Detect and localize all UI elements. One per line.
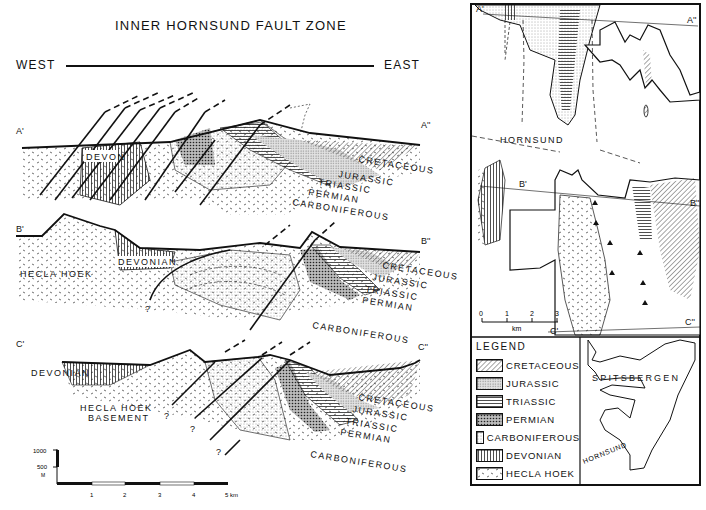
hecla-hoek-swatch-icon: [476, 467, 503, 480]
map-label-a-end: A'': [687, 15, 697, 25]
hscale-tick-3: 3: [158, 492, 162, 498]
label-hecla-hoek: HECLA HOEK: [20, 269, 93, 279]
svg-text:1: 1: [505, 310, 509, 317]
uncertain-marker: ?: [190, 424, 195, 434]
svg-text:km: km: [512, 325, 522, 332]
uncertain-marker: ?: [145, 304, 150, 314]
cross-section-b: B' B'' DEVONIAN HECLA HOEK ? CRETACEOUS …: [16, 214, 459, 345]
label-basement: BASEMENT: [88, 413, 150, 423]
label-hecla-hoek: HECLA HOEK: [80, 403, 153, 413]
map-label-c-start: C': [550, 326, 558, 336]
section-b-start: B': [16, 224, 24, 234]
label-carboniferous: CARBONIFEROUS: [312, 320, 410, 345]
svg-text:0: 0: [479, 310, 483, 317]
uncertain-marker: ?: [216, 447, 221, 457]
svg-text:2: 2: [530, 310, 534, 317]
hscale-tick-2: 2: [123, 492, 127, 498]
spitsbergen-inset: SPITSBERGEN HORNSUND: [582, 340, 695, 470]
carboniferous-swatch-icon: [476, 431, 484, 444]
triassic-swatch-icon: [476, 395, 503, 408]
cross-section-a: DEVON A' A'' CRETACEOUS JURASSIC TRIASSI…: [16, 92, 435, 222]
label-devonian: DEVONIAN: [118, 257, 177, 267]
permian-swatch-icon: [476, 413, 503, 426]
jurassic-swatch-icon: [476, 377, 503, 390]
diagram-canvas: DEVON A' A'' CRETACEOUS JURASSIC TRIASSI…: [0, 0, 706, 510]
vscale-unit: M: [41, 472, 45, 478]
svg-text:3: 3: [555, 310, 559, 317]
map-hornsund-label: HORNSUND: [500, 135, 564, 145]
vscale-500: 500: [37, 464, 48, 470]
section-c-end: C'': [418, 342, 428, 352]
horizontal-scale: 1 2 3 4 5 km: [57, 482, 238, 498]
cross-section-c: C' C'' DEVONIAN HECLA HOEK BASEMENT ? ? …: [16, 339, 435, 474]
map-scale: 0 1 2 3 km: [479, 310, 559, 332]
legend-item-jurassic: JURASSIC: [476, 374, 580, 392]
label-devon: DEVON: [86, 152, 126, 162]
hscale-tick-1: 1: [90, 492, 94, 498]
hscale-tick-4: 4: [192, 492, 196, 498]
legend-item-triassic: TRIASSIC: [476, 392, 580, 410]
section-b-end: B'': [421, 236, 431, 246]
section-c-start: C': [16, 339, 24, 349]
vscale-1000: 1000: [33, 448, 47, 454]
legend-item-cretaceous: CRETACEOUS: [476, 356, 580, 374]
legend-item-devonian: DEVONIAN: [476, 446, 580, 464]
legend: LEGEND CRETACEOUS JURASSIC TRIASSIC PERM…: [472, 340, 580, 482]
label-carboniferous: CARBONIFEROUS: [310, 449, 408, 474]
hscale-end: 5 km: [225, 492, 238, 498]
legend-item-carboniferous: CARBONIFEROUS: [476, 428, 580, 446]
cretaceous-swatch-icon: [476, 359, 503, 372]
vertical-scale: 1000 500 M: [33, 448, 59, 484]
uncertain-marker: ?: [164, 411, 169, 421]
map-label-b-end: B'': [690, 198, 700, 208]
map-label-b-start: B': [519, 179, 527, 189]
inset-title: SPITSBERGEN: [592, 373, 680, 383]
devonian-swatch-icon: [476, 449, 503, 462]
section-a-end: A'': [421, 120, 431, 130]
legend-item-permian: PERMIAN: [476, 410, 580, 428]
section-a-start: A': [16, 126, 24, 136]
legend-title: LEGEND: [476, 341, 580, 352]
map-label-a-start: A': [476, 4, 484, 14]
label-devonian: DEVONIAN: [31, 368, 90, 378]
map-label-c-end: C'': [685, 317, 695, 327]
legend-item-hecla-hoek: HECLA HOEK: [476, 464, 580, 482]
inset-hornsund-label: HORNSUND: [582, 441, 628, 465]
